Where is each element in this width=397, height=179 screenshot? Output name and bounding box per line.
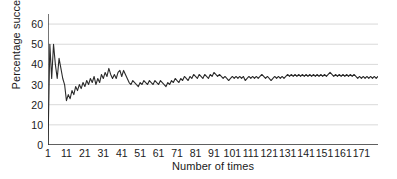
y-tick-label: 40	[3, 58, 43, 70]
plot-svg	[48, 14, 378, 145]
y-tick-label: 30	[3, 79, 43, 91]
x-tick-label: 1	[45, 147, 51, 159]
x-tick-label: 91	[208, 147, 220, 159]
y-axis-tick-labels: 0102030405060	[0, 14, 43, 145]
y-tick-label: 10	[3, 119, 43, 131]
y-tick-label: 20	[3, 99, 43, 111]
x-tick-label: 101	[224, 147, 242, 159]
x-tick-label: 81	[190, 147, 202, 159]
x-tick-label: 171	[353, 147, 371, 159]
x-tick-label: 41	[116, 147, 128, 159]
x-tick-label: 121	[260, 147, 278, 159]
y-tick-label: 50	[3, 38, 43, 50]
x-tick-label: 131	[279, 147, 297, 159]
x-tick-label: 141	[297, 147, 315, 159]
x-tick-label: 31	[97, 147, 109, 159]
x-tick-label: 151	[316, 147, 334, 159]
x-tick-label: 21	[79, 147, 91, 159]
line-chart: Percentage success 0102030405060 1112131…	[0, 0, 397, 179]
x-tick-label: 61	[153, 147, 165, 159]
plot-area	[48, 14, 378, 145]
x-axis-tick-labels: 1112131415161718191101111121131141151161…	[48, 147, 378, 161]
y-tick-label: 60	[3, 18, 43, 30]
x-tick-label: 51	[134, 147, 146, 159]
x-axis-title: Number of times	[48, 160, 378, 172]
series-polyline	[48, 44, 378, 145]
x-tick-label: 161	[334, 147, 352, 159]
data-series-line	[48, 44, 378, 145]
x-tick-label: 11	[61, 147, 72, 159]
y-tick-label: 0	[3, 139, 43, 151]
x-tick-label: 71	[171, 147, 183, 159]
x-tick-label: 111	[243, 147, 259, 159]
